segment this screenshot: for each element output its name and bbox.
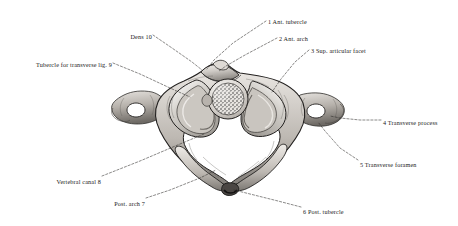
label-2: 2 Ant. arch xyxy=(279,36,308,42)
label-8: Vertebral canal 8 xyxy=(57,179,101,185)
label-6: 6 Post. tubercle xyxy=(303,209,344,215)
leader-line-6 xyxy=(234,190,301,207)
label-1: 1 Ant. tubercle xyxy=(268,19,307,25)
left-transverse-foramen xyxy=(127,103,145,117)
label-9: Tubercle for transverse lig. 9 xyxy=(36,62,112,68)
leader-line-10 xyxy=(153,35,202,70)
dens-highlight xyxy=(212,83,230,101)
tubercle-for-transverse-ligament xyxy=(202,94,212,106)
label-3: 3 Sup. articular facet xyxy=(311,48,366,54)
label-10: Dens 10 xyxy=(130,34,152,40)
label-5: 5 Transverse foramen xyxy=(360,162,417,168)
atlas-bone-body xyxy=(112,60,345,195)
label-7: Post. arch 7 xyxy=(114,201,145,207)
right-transverse-foramen xyxy=(307,104,325,118)
leader-line-5 xyxy=(318,122,358,160)
label-4: 4 Transverse process xyxy=(383,120,438,126)
atlas-vertebra-figure xyxy=(0,0,458,226)
anatomical-plate: 1 Ant. tubercle2 Ant. arch3 Sup. articul… xyxy=(0,0,458,226)
